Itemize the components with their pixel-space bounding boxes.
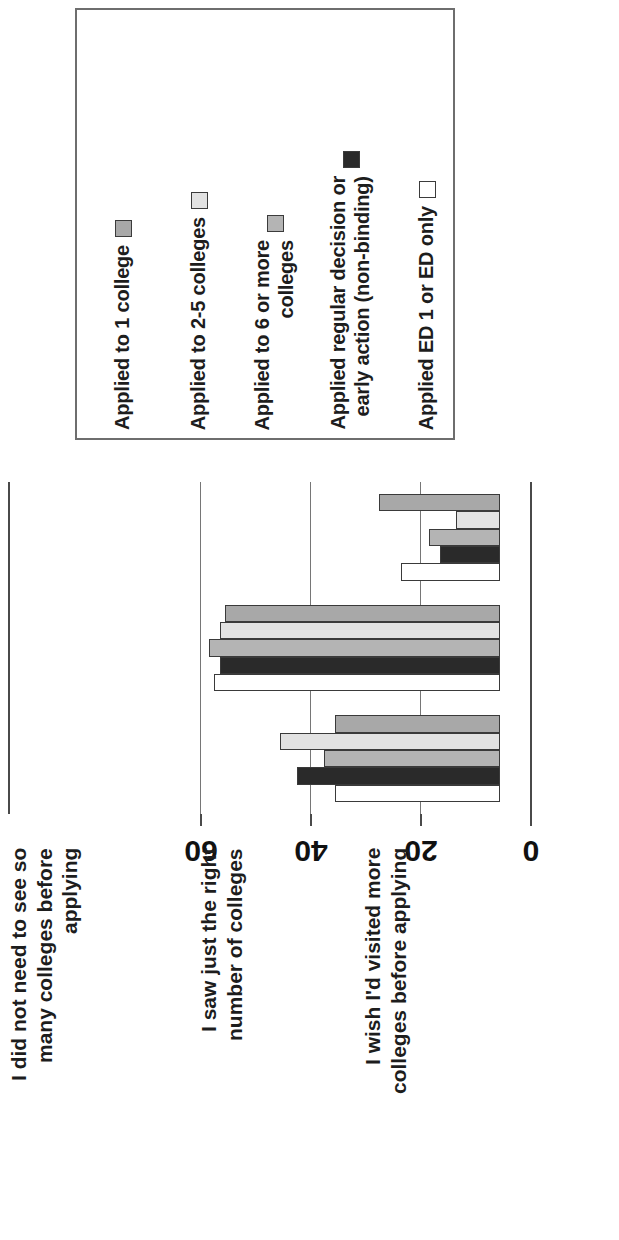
plot-area: 0204060 xyxy=(0,462,560,832)
axis-tick-label: 40 xyxy=(294,834,328,868)
axis-tick-label: 0 xyxy=(514,834,548,868)
bar[interactable] xyxy=(220,622,501,639)
legend-swatch-icon xyxy=(343,151,360,168)
bar[interactable] xyxy=(225,605,500,622)
bar-group xyxy=(0,482,530,593)
legend-swatch-icon xyxy=(419,181,436,198)
legend-item-label: Applied ED 1 or ED only xyxy=(415,206,439,430)
category-label: I saw just the right number of colleges xyxy=(196,848,247,1236)
bar-chart-figure: Applied to 1 collegeApplied to 2-5 colle… xyxy=(0,0,619,1240)
bar[interactable] xyxy=(280,733,500,750)
category-label: I did not need to see so many colleges b… xyxy=(6,848,83,1236)
legend-item-label: Applied to 6 or more colleges xyxy=(251,240,298,430)
bar[interactable] xyxy=(379,494,500,511)
legend-item[interactable]: Applied to 1 college xyxy=(87,220,159,430)
legend-swatch-icon xyxy=(191,192,208,209)
legend-swatch-icon xyxy=(115,220,132,237)
legend-item[interactable]: Applied regular decision or early action… xyxy=(315,151,387,430)
axis-tick xyxy=(420,814,422,826)
legend-item[interactable]: Applied to 2-5 colleges xyxy=(163,192,235,430)
axis-tick xyxy=(200,814,202,826)
value-axis-line xyxy=(530,482,532,814)
bar-group xyxy=(0,593,530,704)
bar[interactable] xyxy=(401,563,500,580)
chart-legend: Applied to 1 collegeApplied to 2-5 colle… xyxy=(75,8,455,440)
axis-tick xyxy=(310,814,312,826)
bar[interactable] xyxy=(440,546,501,563)
bar-group xyxy=(0,703,530,814)
legend-item-label: Applied to 1 college xyxy=(111,245,135,430)
legend-item-label: Applied to 2-5 colleges xyxy=(187,217,211,430)
axis-tick xyxy=(530,814,532,826)
bar[interactable] xyxy=(209,639,501,656)
bar[interactable] xyxy=(335,785,500,802)
legend-item[interactable]: Applied to 6 or more colleges xyxy=(239,215,311,430)
bar[interactable] xyxy=(456,511,500,528)
legend-swatch-icon xyxy=(267,215,284,232)
bar[interactable] xyxy=(335,715,500,732)
bar[interactable] xyxy=(324,750,500,767)
bar[interactable] xyxy=(297,767,501,784)
bar[interactable] xyxy=(429,529,501,546)
legend-item-label: Applied regular decision or early action… xyxy=(327,176,374,430)
legend-item[interactable]: Applied ED 1 or ED only xyxy=(391,181,463,430)
category-label: I wish I'd visited more colleges before … xyxy=(360,848,411,1236)
bar[interactable] xyxy=(220,657,501,674)
bar[interactable] xyxy=(214,674,500,691)
